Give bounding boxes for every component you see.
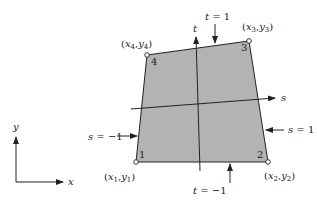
- t-equals-minus1-label: t = −1: [193, 185, 227, 196]
- node-4: [145, 53, 150, 58]
- node-3-coord-label: (x3,y3): [242, 21, 273, 34]
- t-axis-label: t: [193, 23, 198, 34]
- element-diagram: s t t = 1 t = −1 s = −1 s = 1 1 2 3 4 (x…: [0, 0, 317, 201]
- node-4-number: 4: [151, 56, 157, 67]
- node-1-number: 1: [139, 149, 145, 160]
- s-equals-1-label: s = 1: [288, 124, 314, 135]
- diagram-canvas: s t t = 1 t = −1 s = −1 s = 1 1 2 3 4 (x…: [0, 0, 317, 201]
- node-3-number: 3: [241, 42, 247, 53]
- s-axis-label: s: [281, 92, 286, 103]
- node-2: [266, 160, 271, 165]
- node-1-coord-label: (x1,y1): [104, 171, 135, 184]
- node-1: [134, 160, 139, 165]
- node-4-coord-label: (x4,y4): [121, 38, 152, 51]
- node-2-number: 2: [257, 149, 263, 160]
- global-x-label: x: [68, 176, 74, 187]
- global-y-label: y: [12, 121, 19, 132]
- node-2-coord-label: (x2,y2): [264, 170, 295, 183]
- t-equals-1-label: t = 1: [205, 11, 230, 22]
- node-3: [247, 39, 252, 44]
